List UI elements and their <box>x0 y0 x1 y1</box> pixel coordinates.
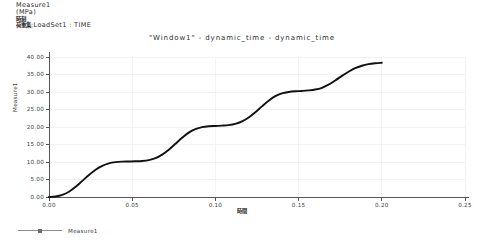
gridlines <box>49 57 465 197</box>
axis-ticks <box>46 57 466 201</box>
y-tick-label: 35.00 <box>7 71 44 77</box>
y-tick-label: 5.00 <box>7 176 44 182</box>
y-tick-label: 40.00 <box>7 54 44 60</box>
y-tick-label: 10.00 <box>7 159 44 165</box>
legend-line-swatch <box>18 227 62 234</box>
plot-svg <box>0 0 484 242</box>
y-tick-label: 15.00 <box>7 141 44 147</box>
legend-series-label: Measure1 <box>68 228 98 234</box>
chart-screen: Measure1 (MPa) 時刻 荷重集:LoadSet1 : TIME "W… <box>0 0 484 242</box>
legend: Measure1 <box>18 227 98 234</box>
plot-area: 0.005.0010.0015.0020.0025.0030.0035.0040… <box>0 0 484 242</box>
y-tick-label: 20.00 <box>7 124 44 130</box>
x-axis-title: 時間 <box>0 207 484 214</box>
y-tick-label: 0.00 <box>7 194 44 200</box>
y-axis-title: Measure1 <box>12 82 18 112</box>
